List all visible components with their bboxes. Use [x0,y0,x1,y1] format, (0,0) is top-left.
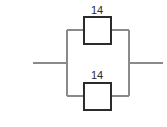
bottom-component-box [84,83,111,110]
top-component-box [84,17,111,44]
circuit-diagram-canvas: 14 14 [0,0,167,127]
bottom-component-label: 14 [91,69,103,81]
top-component-label: 14 [91,4,103,16]
circuit-schematic: 14 14 [0,0,167,127]
